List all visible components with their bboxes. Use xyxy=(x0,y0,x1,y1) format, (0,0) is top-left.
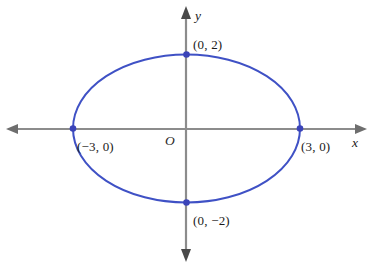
vertex-point-top xyxy=(183,51,190,58)
vertex-point-right xyxy=(297,125,304,132)
x-axis-left-arrowhead xyxy=(6,124,18,134)
vertex-label-left: (−3, 0) xyxy=(77,140,114,153)
vertex-point-left xyxy=(70,125,77,132)
y-axis-bottom-arrowhead xyxy=(181,249,191,262)
origin-label: O xyxy=(165,134,175,148)
coordinate-plane-svg xyxy=(0,0,374,266)
x-axis-right-arrowhead xyxy=(355,124,367,134)
vertex-label-bottom: (0, −2) xyxy=(193,214,230,227)
y-axis xyxy=(181,6,191,262)
vertex-label-right: (3, 0) xyxy=(301,140,330,153)
x-axis-label: x xyxy=(352,136,358,150)
ellipse-graph-figure: (0, 2) (−3, 0) (3, 0) (0, −2) y x O xyxy=(0,0,374,266)
y-axis-top-arrowhead xyxy=(181,6,191,19)
vertex-point-bottom xyxy=(183,199,190,206)
vertex-label-top: (0, 2) xyxy=(193,38,222,51)
y-axis-label: y xyxy=(195,9,201,23)
